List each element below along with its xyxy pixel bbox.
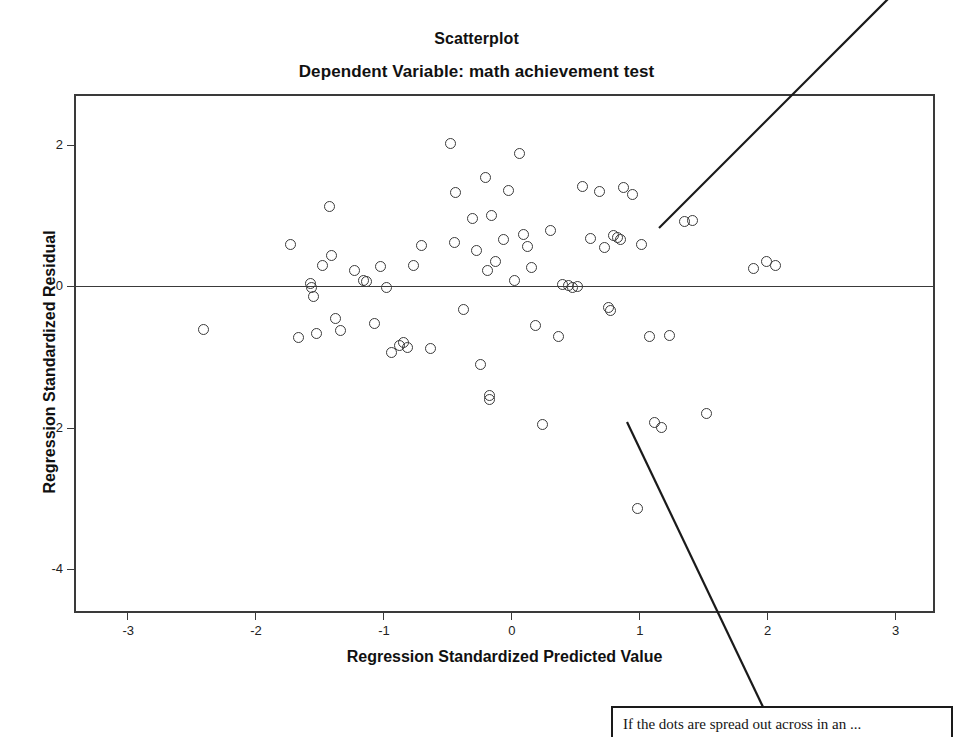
chart-subtitle: Dependent Variable: math achievement tes… (0, 62, 953, 82)
x-axis-tick: 1 (639, 611, 640, 620)
scatter-point (317, 260, 328, 271)
y-axis-tick-label: 2 (56, 137, 63, 152)
scatter-point (285, 239, 296, 250)
scatter-point (449, 237, 460, 248)
scatter-point (514, 148, 525, 159)
scatter-point (509, 275, 520, 286)
x-axis-tick: 0 (511, 611, 512, 620)
x-axis-tick-label: 3 (882, 623, 910, 638)
scatter-point (375, 261, 386, 272)
scatter-point (526, 262, 537, 273)
scatter-point (490, 256, 501, 267)
x-axis-title: Regression Standardized Predicted Value (74, 648, 935, 666)
scatter-point (627, 189, 638, 200)
scatterplot-screenshot: Scatterplot Dependent Variable: math ach… (0, 0, 953, 737)
x-axis-tick: -3 (127, 611, 128, 620)
scatter-point (498, 234, 509, 245)
x-axis-tick: 3 (895, 611, 896, 620)
scatter-point (594, 186, 605, 197)
callout-text: If the dots are spread out across in an … (623, 715, 945, 734)
chart-title: Scatterplot (0, 30, 953, 48)
scatter-point (518, 229, 529, 240)
scatter-point (335, 325, 346, 336)
x-axis-tick-label: 2 (754, 623, 782, 638)
scatter-point (324, 201, 335, 212)
scatter-point (486, 210, 497, 221)
scatter-point (585, 233, 596, 244)
scatter-point (361, 276, 372, 287)
scatter-point (349, 265, 360, 276)
scatter-point (632, 503, 643, 514)
scatter-point (425, 343, 436, 354)
scatter-point (293, 332, 304, 343)
scatter-point (198, 324, 209, 335)
plot-frame: 20-2-4-3-2-10123 (74, 94, 935, 613)
scatter-point (553, 331, 564, 342)
scatter-point (475, 359, 486, 370)
y-axis-tick: -2 (67, 428, 76, 429)
scatter-point (522, 241, 533, 252)
scatter-point (537, 419, 548, 430)
x-axis-tick: -2 (255, 611, 256, 620)
scatter-point (545, 225, 556, 236)
scatter-point (369, 318, 380, 329)
scatter-point (326, 250, 337, 261)
x-axis-tick: -1 (383, 611, 384, 620)
scatter-point (480, 172, 491, 183)
scatter-point (605, 305, 616, 316)
scatter-point (701, 408, 712, 419)
scatter-point (503, 185, 514, 196)
scatter-point (484, 394, 495, 405)
y-axis-tick: 0 (67, 286, 76, 287)
scatter-point (445, 138, 456, 149)
scatter-point (402, 342, 413, 353)
scatter-point (467, 213, 478, 224)
scatter-point (599, 242, 610, 253)
scatter-point (330, 313, 341, 324)
scatter-point (530, 320, 541, 331)
x-axis-tick-label: 0 (498, 623, 526, 638)
scatter-point (311, 328, 322, 339)
scatter-point (450, 187, 461, 198)
scatter-point (644, 331, 655, 342)
y-axis-title: Regression Standardized Residual (41, 152, 59, 572)
y-axis-tick: -4 (67, 569, 76, 570)
scatter-point (572, 281, 583, 292)
y-axis-tick: 2 (67, 145, 76, 146)
scatter-point (458, 304, 469, 315)
x-axis-tick-label: -2 (242, 623, 270, 638)
scatter-point (615, 234, 626, 245)
x-axis-tick-label: 1 (626, 623, 654, 638)
scatter-point (416, 240, 427, 251)
scatter-point (471, 245, 482, 256)
scatter-point (408, 260, 419, 271)
x-axis-tick-label: -3 (114, 623, 142, 638)
scatter-point (656, 422, 667, 433)
scatter-point (577, 181, 588, 192)
scatter-point (664, 330, 675, 341)
x-axis-tick: 2 (767, 611, 768, 620)
scatter-point (308, 291, 319, 302)
scatter-point (636, 239, 647, 250)
scatter-point (381, 282, 392, 293)
scatter-point (748, 263, 759, 274)
x-axis-tick-label: -1 (370, 623, 398, 638)
scatter-point (687, 215, 698, 226)
plot-area: 20-2-4-3-2-10123 (76, 96, 933, 611)
scatter-point (770, 260, 781, 271)
scatter-point (482, 265, 493, 276)
callout-box: If the dots are spread out across in an … (611, 706, 953, 737)
zero-reference-line (76, 286, 933, 287)
